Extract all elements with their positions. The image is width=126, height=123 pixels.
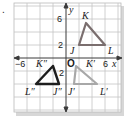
x-tick-6: 6: [103, 59, 108, 69]
label-k-prime: K′: [85, 58, 96, 69]
label-l: L: [107, 45, 114, 56]
label-k: K: [81, 10, 90, 21]
x-axis-label: x: [111, 58, 117, 69]
origin-label: O: [67, 58, 75, 69]
y-tick-neg2: 2: [59, 68, 64, 78]
x-tick-neg6: −6: [15, 59, 25, 69]
label-j: J: [70, 45, 75, 56]
label-l-prime: L′: [99, 86, 109, 97]
y-tick-2: 2: [58, 40, 63, 50]
label-l-double-prime: L″: [24, 86, 36, 97]
label-k-double-prime: K″: [35, 58, 48, 69]
label-j-double-prime: J″: [53, 86, 62, 97]
y-axis-label: y: [68, 4, 74, 15]
label-j-prime: J′: [68, 86, 75, 97]
y-tick-6: 6: [57, 14, 62, 24]
coordinate-graph: y x O 6 2 2 −6 6 K J L K′ J′ L′ K″ J″ L″: [0, 0, 126, 123]
